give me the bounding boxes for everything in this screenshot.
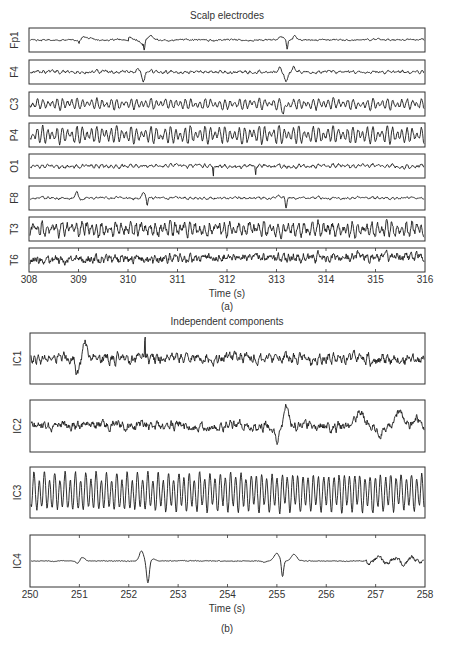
channel-row-ic4: IC4 (12, 535, 426, 587)
x-axis: 308309310311312313314315316 (21, 248, 434, 285)
axes-box (29, 28, 425, 52)
trace-t3 (30, 219, 424, 239)
channel-row-t6: T6 (9, 248, 426, 272)
trace-ic1 (31, 337, 424, 375)
x-tick-label: 255 (269, 589, 286, 600)
x-tick-label: 309 (70, 274, 87, 285)
channel-label: IC4 (12, 553, 23, 569)
x-tick-label: 254 (219, 589, 236, 600)
channel-label: C3 (9, 97, 20, 110)
x-tick-label: 253 (170, 589, 187, 600)
axes-box (29, 60, 425, 84)
panel-a-label: (a) (212, 301, 242, 312)
panel-b-title: Independent components (162, 316, 292, 327)
channel-label: IC1 (12, 350, 23, 366)
channel-row-t3: T3 (9, 217, 426, 241)
x-tick-label: 312 (219, 274, 236, 285)
channel-row-f4: F4 (9, 60, 426, 84)
x-tick-label: 314 (318, 274, 335, 285)
channel-label: IC3 (12, 484, 23, 500)
x-tick-label: 316 (417, 274, 434, 285)
x-tick-label: 257 (367, 589, 384, 600)
channel-label: P4 (9, 128, 20, 141)
channel-row-ic3: IC3 (12, 467, 426, 518)
trace-o1 (30, 163, 424, 176)
x-tick-label: 251 (71, 589, 88, 600)
panel-a-title: Scalp electrodes (177, 10, 277, 21)
x-tick-label: 310 (120, 274, 137, 285)
trace-f4 (30, 66, 424, 82)
panel-b-independent-components: IC1IC2IC3IC4250251252253254255256257258 (12, 333, 434, 600)
x-tick-label: 308 (21, 274, 38, 285)
channel-label: IC2 (12, 418, 23, 434)
x-axis: 250251252253254255256257258 (22, 535, 434, 600)
channel-label: Fp1 (9, 31, 20, 49)
channel-row-p4: P4 (9, 123, 426, 147)
x-tick-label: 315 (367, 274, 384, 285)
channel-label: O1 (9, 159, 20, 173)
channel-row-ic1: IC1 (12, 333, 426, 384)
x-tick-label: 250 (22, 589, 39, 600)
panel-b-label: (b) (212, 623, 242, 634)
channel-row-c3: C3 (9, 92, 426, 116)
x-tick-label: 252 (120, 589, 137, 600)
x-tick-label: 258 (417, 589, 434, 600)
channel-row-o1: O1 (9, 154, 426, 178)
trace-ic4 (31, 551, 424, 583)
panel-a-xlabel: Time (s) (197, 288, 257, 299)
channel-label: F8 (9, 192, 20, 204)
trace-ic3 (31, 471, 424, 514)
panel-a-scalp-electrodes: Fp1F4C3P4O1F8T3T630830931031131231331431… (9, 28, 434, 285)
x-tick-label: 313 (268, 274, 285, 285)
trace-t6 (30, 250, 424, 265)
trace-fp1 (30, 35, 424, 50)
x-tick-label: 256 (318, 589, 335, 600)
trace-p4 (30, 125, 424, 145)
trace-f8 (30, 191, 424, 208)
channel-row-ic2: IC2 (12, 400, 426, 452)
channel-label: F4 (9, 66, 20, 78)
trace-ic2 (31, 404, 424, 444)
channel-row-f8: F8 (9, 186, 426, 210)
channel-label: T3 (9, 223, 20, 235)
channel-label: T6 (9, 254, 20, 266)
channel-row-fp1: Fp1 (9, 28, 426, 52)
x-tick-label: 311 (170, 274, 186, 285)
axes-box (30, 333, 425, 384)
panel-b-xlabel: Time (s) (197, 603, 257, 614)
trace-c3 (30, 98, 424, 115)
